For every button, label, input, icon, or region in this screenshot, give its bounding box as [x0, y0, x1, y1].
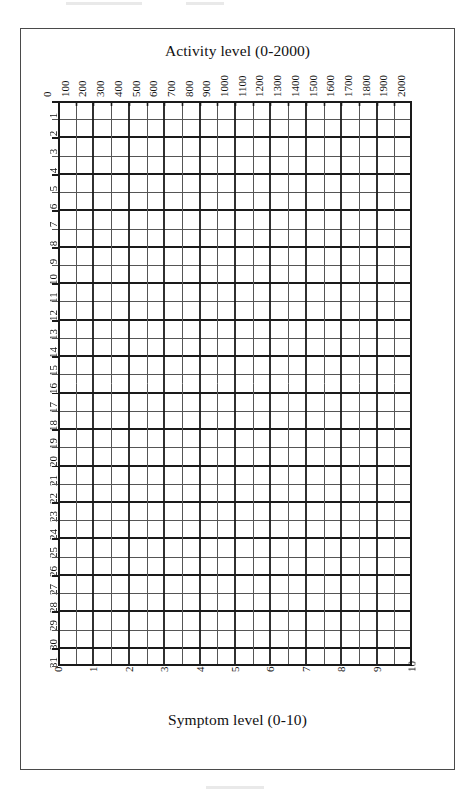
top-tick-1200: 1200: [254, 75, 265, 97]
bottom-axis-title: Symptom level (0-10): [21, 711, 454, 729]
day-tick-17: 17: [48, 398, 59, 416]
day-tick-24: 24: [48, 526, 59, 544]
day-tick-mark: [52, 630, 58, 631]
day-tick-30: 30: [48, 635, 59, 653]
day-tick-3: 3: [48, 143, 59, 161]
day-tick-mark: [52, 247, 58, 249]
day-tick-mark: [52, 119, 58, 120]
day-tick-10: 10: [48, 271, 59, 289]
day-tick-22: 22: [48, 489, 59, 507]
day-tick-mark: [52, 101, 58, 103]
top-tick-1000: 1000: [219, 75, 230, 97]
day-tick-mark: [52, 411, 58, 412]
day-tick-mark: [52, 666, 58, 667]
top-tick-500: 500: [130, 81, 141, 98]
bottom-tick-2: 2: [123, 667, 134, 673]
top-tick-1900: 1900: [378, 75, 389, 97]
top-tick-900: 900: [201, 81, 212, 98]
day-tick-mark: [52, 192, 58, 193]
top-tick-1600: 1600: [325, 75, 336, 97]
day-tick-28: 28: [48, 599, 59, 617]
day-tick-mark: [52, 320, 58, 322]
day-tick-mark: [52, 356, 58, 358]
top-tick-200: 200: [77, 81, 88, 98]
day-tick-mark: [52, 593, 58, 594]
day-tick-21: 21: [48, 471, 59, 489]
day-tick-14: 14: [48, 343, 59, 361]
bottom-tick-9: 9: [371, 667, 382, 673]
day-tick-29: 29: [48, 617, 59, 635]
bottom-tick-1: 1: [88, 667, 99, 673]
day-tick-4: 4: [48, 161, 59, 179]
day-tick-1: 1: [48, 107, 59, 125]
top-tick-800: 800: [183, 81, 194, 98]
top-tick-400: 400: [112, 81, 123, 98]
top-tick-2000: 2000: [396, 75, 407, 97]
bottom-tick-5: 5: [230, 667, 241, 673]
day-tick-mark: [52, 174, 58, 176]
top-axis-title: Activity level (0-2000): [21, 42, 454, 60]
day-tick-mark: [52, 301, 58, 302]
day-tick-27: 27: [48, 580, 59, 598]
top-tick-600: 600: [148, 81, 159, 98]
top-tick-100: 100: [59, 81, 70, 98]
top-tick-1300: 1300: [272, 75, 283, 97]
bottom-tick-7: 7: [300, 667, 311, 673]
day-tick-mark: [52, 429, 58, 431]
day-tick-8: 8: [48, 234, 59, 252]
bottom-tick-6: 6: [265, 667, 276, 673]
day-tick-7: 7: [48, 216, 59, 234]
day-tick-mark: [52, 210, 58, 212]
scan-artifact-top-right: [186, 2, 224, 5]
day-tick-mark: [52, 393, 58, 395]
day-tick-18: 18: [48, 416, 59, 434]
day-tick-mark: [52, 538, 58, 540]
day-tick-mark: [52, 557, 58, 558]
scanned-page: Activity level (0-2000) Symptom level (0…: [0, 0, 474, 794]
top-tick-1500: 1500: [307, 75, 318, 97]
bottom-tick-8: 8: [336, 667, 347, 673]
day-tick-26: 26: [48, 562, 59, 580]
top-tick-700: 700: [165, 81, 176, 98]
bottom-tick-4: 4: [194, 667, 205, 673]
day-tick-mark: [52, 338, 58, 339]
day-tick-25: 25: [48, 544, 59, 562]
top-tick-1800: 1800: [360, 75, 371, 97]
day-tick-mark: [52, 502, 58, 504]
day-tick-15: 15: [48, 362, 59, 380]
day-tick-mark: [52, 484, 58, 485]
day-tick-mark: [52, 447, 58, 448]
day-tick-mark: [52, 648, 58, 650]
top-tick-300: 300: [95, 81, 106, 98]
day-tick-mark: [52, 265, 58, 266]
bottom-tick-10: 10: [407, 661, 418, 672]
day-tick-mark: [52, 520, 58, 521]
day-tick-mark: [52, 374, 58, 375]
day-tick-mark: [52, 137, 58, 139]
day-tick-11: 11: [48, 289, 59, 307]
scan-artifact-bottom: [206, 786, 264, 789]
page-border: Activity level (0-2000) Symptom level (0…: [20, 28, 455, 770]
day-tick-2: 2: [48, 125, 59, 143]
day-tick-mark: [52, 575, 58, 577]
bottom-tick-3: 3: [159, 667, 170, 673]
day-tick-mark: [52, 611, 58, 613]
day-tick-23: 23: [48, 507, 59, 525]
grid-lines: [58, 101, 412, 666]
day-tick-5: 5: [48, 179, 59, 197]
top-tick-1100: 1100: [236, 75, 247, 97]
day-tick-31: 31: [48, 653, 59, 671]
day-tick-mark: [52, 156, 58, 157]
day-tick-6: 6: [48, 198, 59, 216]
day-tick-mark: [52, 283, 58, 285]
top-tick-1400: 1400: [289, 75, 300, 97]
diary-grid[interactable]: 0100200300400500600700800900100011001200…: [58, 101, 412, 666]
day-tick-9: 9: [48, 252, 59, 270]
scan-artifact-top-left: [66, 2, 142, 5]
top-tick-1700: 1700: [342, 75, 353, 97]
day-tick-mark: [52, 466, 58, 468]
day-tick-12: 12: [48, 307, 59, 325]
day-tick-16: 16: [48, 380, 59, 398]
day-tick-13: 13: [48, 325, 59, 343]
top-tick-0: 0: [42, 92, 53, 98]
